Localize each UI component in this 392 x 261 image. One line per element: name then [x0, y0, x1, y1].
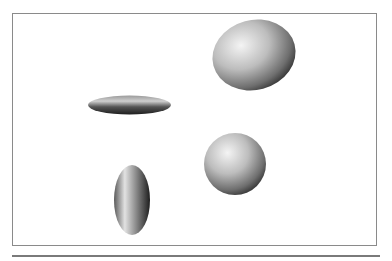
sphere — [204, 133, 266, 195]
bottom-rule — [12, 255, 380, 257]
ellipsoid-scene — [0, 0, 392, 261]
flat-disc-ellipsoid — [88, 96, 171, 115]
vertical-ellipsoid — [114, 165, 150, 235]
tilted-ellipsoid — [204, 10, 303, 99]
